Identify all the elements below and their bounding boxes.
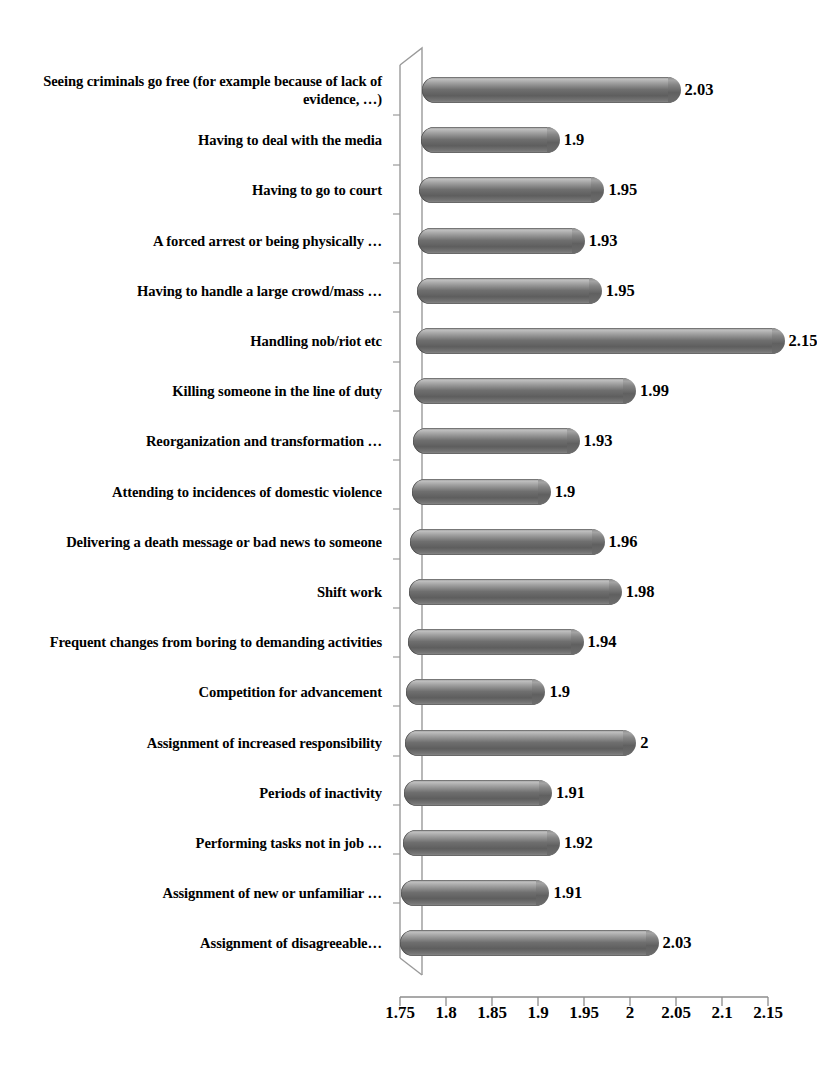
category-label: Having to handle a large crowd/mass … (0, 282, 382, 300)
bar (422, 77, 680, 103)
category-label: Delivering a death message or bad news t… (0, 533, 382, 551)
bar-value-label: 2.03 (663, 932, 692, 954)
category-label: A forced arrest or being physically … (0, 232, 382, 250)
bar (417, 278, 601, 304)
plot-area: 2.031.91.951.931.952.151.991.931.91.961.… (392, 40, 802, 1000)
category-label: Periods of inactivity (0, 784, 382, 802)
category-label: Having to go to court (0, 181, 382, 199)
value-axis-tick-label: 1.9 (527, 1002, 548, 1024)
bar (419, 177, 603, 203)
value-axis-tick-label: 2.15 (753, 1002, 783, 1024)
category-label: Assignment of new or unfamiliar … (0, 884, 382, 902)
bar (413, 428, 579, 454)
bar (406, 679, 544, 705)
bar-value-label: 1.95 (608, 179, 637, 201)
bar-value-label: 2.15 (789, 330, 817, 352)
bar (418, 228, 584, 254)
bar (400, 930, 658, 956)
value-axis-tick-label: 1.85 (477, 1002, 507, 1024)
category-label: Reorganization and transformation … (0, 432, 382, 450)
bar-value-label: 1.93 (589, 230, 618, 252)
category-label: Competition for advancement (0, 683, 382, 701)
bar (409, 579, 621, 605)
category-label: Frequent changes from boring to demandin… (0, 633, 382, 651)
category-axis-labels: Seeing criminals go free (for example be… (0, 58, 392, 958)
bar (416, 328, 784, 354)
bar-value-label: 1.91 (553, 882, 582, 904)
bar-value-label: 1.9 (564, 129, 585, 151)
category-label: Shift work (0, 583, 382, 601)
bar-value-label: 1.91 (556, 782, 585, 804)
bar-value-label: 1.9 (549, 681, 570, 703)
bar (403, 830, 559, 856)
bar-value-label: 1.99 (640, 380, 669, 402)
category-label: Handling nob/riot etc (0, 332, 382, 350)
value-axis-tick-label: 2.05 (661, 1002, 691, 1024)
bar (414, 378, 635, 404)
bar (401, 880, 548, 906)
bar-value-label: 1.94 (588, 631, 617, 653)
category-label: Assignment of increased responsibility (0, 734, 382, 752)
bars-layer: 2.031.91.951.931.952.151.991.931.91.961.… (392, 40, 802, 1000)
bar-value-label: 1.93 (584, 430, 613, 452)
bar (412, 479, 550, 505)
value-axis: 1.751.81.851.91.9522.052.12.15 (392, 996, 802, 1036)
bar-value-label: 1.95 (606, 280, 635, 302)
category-label: Performing tasks not in job … (0, 834, 382, 852)
category-label: Killing someone in the line of duty (0, 382, 382, 400)
category-label: Assignment of disagreeable… (0, 934, 382, 952)
category-label: Attending to incidences of domestic viol… (0, 483, 382, 501)
bar (408, 629, 583, 655)
bar-value-label: 1.98 (626, 581, 655, 603)
bar-value-label: 1.9 (555, 481, 576, 503)
value-axis-tick-label: 1.95 (569, 1002, 599, 1024)
bar-value-label: 2.03 (685, 79, 714, 101)
bar (410, 529, 603, 555)
bar-value-label: 1.96 (609, 531, 638, 553)
bar (404, 780, 551, 806)
value-axis-tick-label: 1.75 (385, 1002, 415, 1024)
bar (421, 127, 559, 153)
bar-value-label: 2 (640, 732, 648, 754)
category-label: Seeing criminals go free (for example be… (0, 72, 382, 108)
value-axis-tick-label: 2 (626, 1002, 635, 1024)
value-axis-tick-label: 2.1 (711, 1002, 732, 1024)
category-label: Having to deal with the media (0, 131, 382, 149)
value-axis-tick-label: 1.8 (435, 1002, 456, 1024)
bar (405, 730, 635, 756)
bar-value-label: 1.92 (564, 832, 593, 854)
